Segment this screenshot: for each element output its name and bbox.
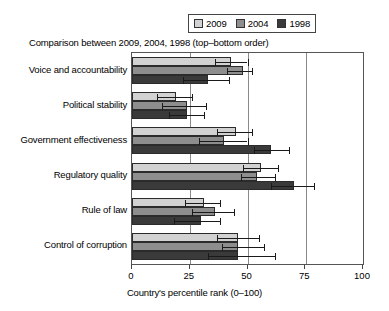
x-tick-mark [247,265,248,269]
legend-entry-1998: 1998 [277,19,310,29]
category-label: Government effectiveness [20,134,127,145]
error-bar-cap [314,183,315,190]
error-bar-cap [206,103,207,110]
legend-label-1998: 1998 [289,19,310,29]
error-bar [222,247,264,248]
error-bar [254,150,289,151]
x-tick-label: 100 [354,270,370,281]
error-bar-cap [271,183,272,190]
error-bar-cap [229,77,230,84]
error-bar-cap [234,209,235,216]
x-axis-title: Country's percentile rank (0–100) [0,287,389,298]
error-bar [215,62,247,63]
x-tick-mark [304,265,305,269]
error-bar-cap [264,244,265,251]
chart-legend: 2009 2004 1998 [188,14,316,33]
error-bar-cap [199,138,200,145]
error-bar [208,256,275,257]
error-bar [162,106,206,107]
error-bar-cap [208,253,209,260]
error-bar-cap [248,59,249,66]
error-bar [243,168,278,169]
legend-entry-2004: 2004 [236,19,269,29]
legend-swatch-2009 [194,19,203,28]
error-bar-cap [174,218,175,225]
error-bar-cap [215,59,216,66]
category-axis-labels: Voice and accountabilityPolitical stabil… [0,52,127,265]
x-tick-mark [131,265,132,269]
error-bar-cap [169,112,170,119]
error-bar-cap [254,147,255,154]
error-bar-cap [259,235,260,242]
bar [132,172,257,181]
error-bar-cap [192,209,193,216]
error-bar [157,97,192,98]
error-bar [174,221,220,222]
bars-layer [132,53,363,264]
error-bar [185,203,220,204]
error-bar-cap [162,103,163,110]
error-bar-cap [204,112,205,119]
error-bar-cap [220,218,221,225]
x-tick-label: 25 [183,270,194,281]
error-bar-cap [222,244,223,251]
error-bar-cap [220,200,221,207]
error-bar [217,238,259,239]
error-bar-cap [217,129,218,136]
legend-entry-2009: 2009 [194,19,227,29]
error-bar [217,132,252,133]
x-tick-label: 75 [299,270,310,281]
category-label: Control of corruption [44,239,127,250]
legend-swatch-1998 [277,19,286,28]
category-label: Regulatory quality [54,169,127,180]
x-tick-label: 0 [128,270,133,281]
error-bar [183,80,229,81]
chart-container: 2009 2004 1998 Comparison between 2009, … [0,0,389,311]
x-tick-label: 50 [241,270,252,281]
error-bar-cap [289,147,290,154]
error-bar [192,212,234,213]
error-bar [227,71,252,72]
error-bar-cap [252,129,253,136]
x-axis: 0255075100 Country's percentile rank (0–… [0,265,389,311]
chart-subtitle: Comparison between 2009, 2004, 1998 (top… [29,37,269,48]
error-bar-cap [243,165,244,172]
bar [132,181,294,190]
legend-swatch-2004 [236,19,245,28]
bar [132,145,271,154]
error-bar [241,177,276,178]
error-bar-cap [185,200,186,207]
error-bar-cap [192,94,193,101]
error-bar-cap [278,165,279,172]
error-bar-cap [275,253,276,260]
error-bar-cap [275,174,276,181]
error-bar [169,115,204,116]
error-bar-cap [252,68,253,75]
error-bar-cap [183,77,184,84]
legend-label-2009: 2009 [206,19,227,29]
category-label: Voice and accountability [29,64,127,75]
error-bar-cap [248,138,249,145]
error-bar-cap [157,94,158,101]
error-bar-cap [227,68,228,75]
error-bar [199,141,248,142]
x-tick-mark [189,265,190,269]
legend-label-2004: 2004 [248,19,269,29]
error-bar-cap [241,174,242,181]
category-label: Political stability [63,99,127,110]
category-label: Rule of law [82,204,127,215]
error-bar [271,186,315,187]
x-tick-mark [362,265,363,269]
error-bar-cap [217,235,218,242]
